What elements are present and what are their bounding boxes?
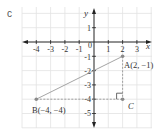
svg-text:-1: -1 xyxy=(76,45,83,54)
point-b-label: B(−4, −4) xyxy=(32,105,66,115)
svg-text:2: 2 xyxy=(121,45,125,54)
point-b xyxy=(35,97,39,101)
svg-text:1: 1 xyxy=(106,45,110,54)
point-a xyxy=(121,55,125,59)
svg-text:1: 1 xyxy=(87,24,91,33)
svg-text:-3: -3 xyxy=(84,81,91,90)
x-axis-label: x xyxy=(145,41,150,51)
point-c xyxy=(121,97,125,101)
x-axis xyxy=(22,40,152,44)
point-a-label: A(2, −1) xyxy=(124,60,154,70)
svg-text:3: 3 xyxy=(135,45,139,54)
y-axis-label: y xyxy=(83,8,88,18)
point-c-label: C xyxy=(128,101,134,111)
y-axis xyxy=(92,8,96,128)
svg-text:-2: -2 xyxy=(62,45,69,54)
graph: -4 -3 -2 -1 0 1 2 3 x 1 -1 -2 -3 -4 -5 y xyxy=(0,0,163,134)
svg-text:-3: -3 xyxy=(47,45,54,54)
y-tick-labels: 1 -1 -2 -3 -4 -5 xyxy=(84,24,91,119)
svg-text:0: 0 xyxy=(88,41,92,50)
coordinate-diagram: c xyxy=(0,0,163,134)
svg-text:-4: -4 xyxy=(33,45,40,54)
svg-text:-1: -1 xyxy=(84,53,91,62)
svg-text:-5: -5 xyxy=(84,109,91,118)
